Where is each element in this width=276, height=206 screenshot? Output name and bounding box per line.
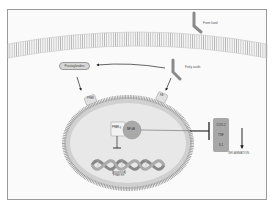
fatty-acid-molecule-icon	[173, 60, 180, 79]
diagram-canvas	[0, 0, 276, 206]
label-receptor-left: PPAR	[87, 98, 94, 101]
arrow-to-prostaglandins	[97, 64, 165, 68]
label-prostaglandins: Prostaglandins	[65, 64, 85, 68]
cytokine-cox2: COX-2	[216, 123, 225, 127]
arrow-fatty-acids-to-receptor	[166, 78, 171, 90]
label-nfkb: NF-kB	[127, 128, 135, 131]
cytokine-box: COX-2 TNF IL1	[213, 118, 229, 152]
label-inflammation: INFLAMMATION	[228, 152, 249, 155]
label-from-food: From food	[203, 22, 218, 25]
arrow-prostaglandins-to-receptor	[77, 77, 81, 90]
nucleus	[64, 97, 192, 189]
label-ppar-re: PPAR RE	[113, 175, 124, 178]
cytokine-tnf: TNF	[218, 133, 224, 137]
label-receptor-right: FA	[160, 95, 163, 98]
cell-membrane	[8, 32, 267, 58]
fatty-acid-molecule-food-icon	[194, 13, 201, 32]
label-fatty-acids: Fatty acids	[185, 66, 200, 69]
cytokine-il1: IL1	[219, 143, 223, 147]
prostaglandins-pill: Prostaglandins	[59, 62, 90, 70]
label-ppar-gamma: PPAR-γ	[112, 127, 121, 130]
